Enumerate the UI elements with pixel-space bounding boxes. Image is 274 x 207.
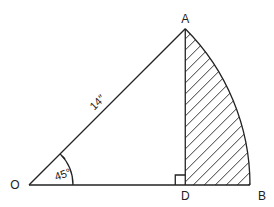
hatch-line xyxy=(261,0,274,205)
hatch-line xyxy=(250,0,274,205)
sector-diagram: A O D B 14″ 45° xyxy=(0,0,274,207)
point-label-A: A xyxy=(181,12,189,26)
hatch-line xyxy=(272,0,274,205)
hatch-line xyxy=(118,0,274,205)
hatch-line xyxy=(239,0,274,205)
right-angle-marker-D xyxy=(175,175,185,185)
hatch-line xyxy=(85,0,274,205)
radius-OA xyxy=(29,29,185,185)
hatch-line xyxy=(162,0,274,205)
hatch-line xyxy=(41,0,251,205)
hatch-line xyxy=(140,0,274,205)
point-label-D: D xyxy=(181,189,190,203)
point-label-B: B xyxy=(258,189,266,203)
hatch-line xyxy=(19,0,229,205)
point-label-O: O xyxy=(10,178,19,192)
hatch-line xyxy=(206,0,274,205)
hatch-line xyxy=(228,0,274,205)
hatch-line xyxy=(184,0,274,205)
shaded-region-ADB xyxy=(0,0,274,205)
hatch-line xyxy=(52,0,262,205)
hatch-line xyxy=(129,0,274,205)
hatch-line xyxy=(107,0,274,205)
hatch-line xyxy=(151,0,274,205)
